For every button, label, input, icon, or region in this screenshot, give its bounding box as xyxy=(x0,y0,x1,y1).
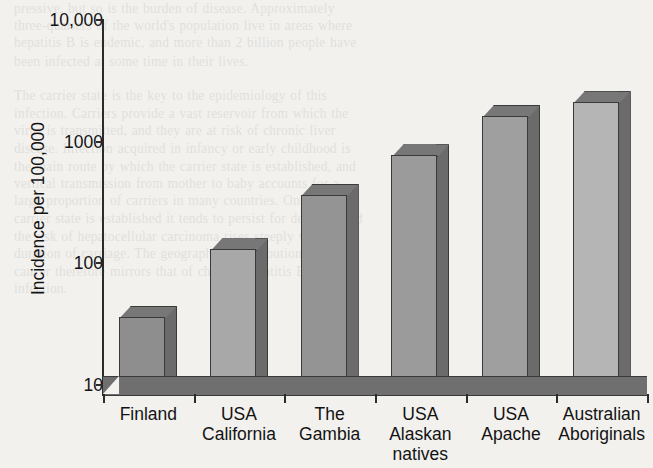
y-axis-title: Incidence per 100,000 xyxy=(28,79,49,339)
x-label-line: Gambia xyxy=(278,424,381,444)
x-tick-mark xyxy=(103,394,105,403)
bar-front-face xyxy=(482,116,528,382)
bar-side-face xyxy=(527,105,540,382)
y-tick-mark xyxy=(96,262,104,264)
x-label-line: USA xyxy=(369,404,472,424)
bar-front-face xyxy=(391,155,437,382)
bar-side-face xyxy=(346,184,359,382)
y-tick-label: 10,000 xyxy=(11,10,103,31)
x-label-line: USA xyxy=(188,404,291,424)
x-tick-mark xyxy=(647,394,649,403)
x-label-the-gambia: TheGambia xyxy=(278,404,381,444)
x-label-usa-apache: USAApache xyxy=(460,404,563,444)
x-tick-mark xyxy=(466,394,468,403)
x-label-line: Australian xyxy=(550,404,653,424)
x-tick-mark xyxy=(556,394,558,403)
x-label-line: Apache xyxy=(460,424,563,444)
bar-side-face xyxy=(618,91,631,382)
bar-the-gambia xyxy=(301,184,359,382)
bar-side-face xyxy=(255,238,268,382)
y-tick-mark xyxy=(96,19,104,21)
bar-finland xyxy=(119,306,177,382)
bar-front-face xyxy=(573,102,619,382)
bar-usa-apache xyxy=(482,105,540,382)
y-tick-mark xyxy=(96,141,104,143)
x-label-line: California xyxy=(188,424,291,444)
bar-usa-california xyxy=(210,238,268,382)
bar-australian-aboriginals xyxy=(573,91,631,382)
x-label-line: Alaskan xyxy=(369,424,472,444)
bar-front-face xyxy=(210,249,256,382)
y-axis-line xyxy=(102,20,104,395)
bar-front-face xyxy=(119,317,165,382)
y-tick-label: 1000 xyxy=(11,132,103,153)
bar-usa-alaskan-natives xyxy=(391,144,449,382)
x-tick-mark xyxy=(194,394,196,403)
x-label-line: natives xyxy=(369,444,472,464)
x-label-usa-alaskan-natives: USAAlaskannatives xyxy=(369,404,472,464)
x-label-line: USA xyxy=(460,404,563,424)
bar-side-face xyxy=(436,144,449,382)
x-tick-mark xyxy=(284,394,286,403)
x-label-line: Aboriginals xyxy=(550,424,653,444)
x-label-line: The xyxy=(278,404,381,424)
chart-floor-slab xyxy=(103,376,647,396)
y-tick-label: 10 xyxy=(11,375,103,396)
x-tick-mark xyxy=(375,394,377,403)
y-tick-label: 100 xyxy=(11,253,103,274)
x-label-usa-california: USACalifornia xyxy=(188,404,291,444)
bar-front-face xyxy=(301,195,347,382)
x-label-finland: Finland xyxy=(97,404,200,424)
x-label-australian-aboriginals: AustralianAboriginals xyxy=(550,404,653,444)
x-label-line: Finland xyxy=(97,404,200,424)
